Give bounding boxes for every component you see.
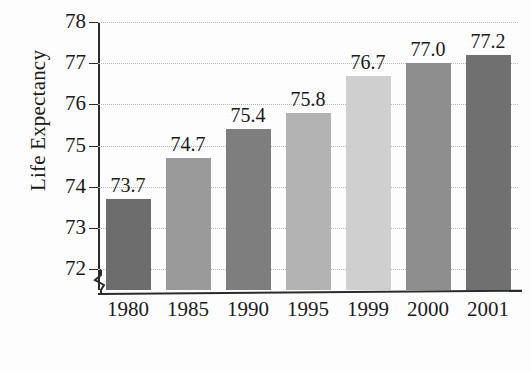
value-label-1980: 73.7 [94,175,162,195]
y-tick-mark [89,146,98,147]
x-tick-label-2000: 2000 [394,299,462,320]
bar-2001[interactable] [466,55,511,290]
bar-2000[interactable] [406,63,451,290]
value-label-1995: 75.8 [274,89,342,109]
y-tick-label: 72 [46,258,86,279]
bar-1999[interactable] [346,76,391,290]
gridline [98,63,518,65]
life-expectancy-bar-chart: Life Expectancy 72737475767778 73.774.77… [0,0,531,373]
x-tick-label-1980: 1980 [94,299,162,320]
value-label-2001: 77.2 [454,31,522,51]
x-tick-label-1999: 1999 [334,299,402,320]
bar-1985[interactable] [166,158,211,290]
y-tick-mark [89,22,98,23]
y-tick-mark [89,228,98,229]
y-tick-mark [89,269,98,270]
y-axis-title: Life Expectancy [26,11,51,231]
value-label-1999: 76.7 [334,52,402,72]
y-tick-mark [89,63,98,64]
gridline [98,22,518,24]
bar-1980[interactable] [106,199,151,290]
x-axis-spine [98,290,522,295]
bar-1995[interactable] [286,113,331,290]
bar-1990[interactable] [226,129,271,290]
x-tick-label-1985: 1985 [154,299,222,320]
value-label-1985: 74.7 [154,134,222,154]
y-tick-label: 74 [46,176,86,197]
plot-area: 72737475767778 [98,22,518,290]
value-label-1990: 75.4 [214,105,282,125]
x-tick-label-1990: 1990 [214,299,282,320]
x-tick-label-2001: 2001 [454,299,522,320]
y-tick-label: 73 [46,217,86,238]
value-label-2000: 77.0 [394,39,462,59]
x-tick-label-1995: 1995 [274,299,342,320]
y-tick-label: 77 [46,52,86,73]
y-tick-mark [89,104,98,105]
y-tick-label: 76 [46,93,86,114]
y-tick-label: 75 [46,135,86,156]
y-tick-label: 78 [46,11,86,32]
